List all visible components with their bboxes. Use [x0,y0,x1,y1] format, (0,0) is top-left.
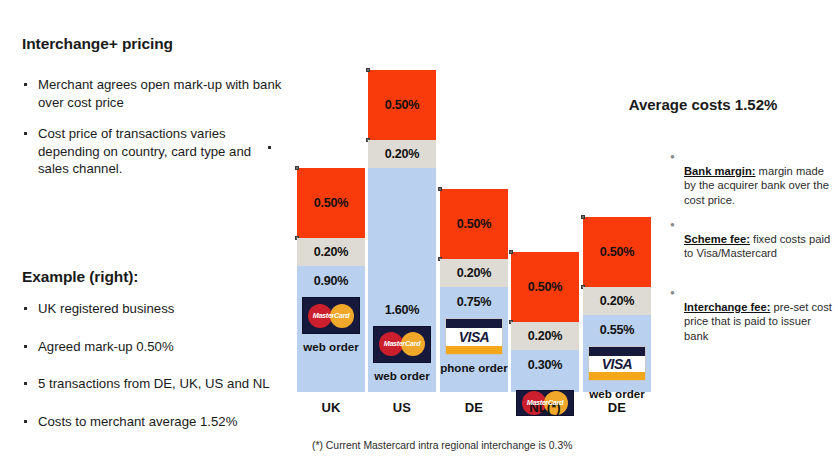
channel-label: web order [303,341,358,353]
list-item: Costs to merchant average 1.52% [22,413,290,431]
chart-footnote: (*) Current Mastercard intra regional in… [312,440,572,451]
segment-value: 0.50% [314,196,349,210]
selection-handle [366,68,370,72]
visa-wordmark: VISA [589,356,645,372]
list-item: Cost price of transactions varies depend… [22,125,284,178]
mastercard-logo-icon: MasterCard [302,297,360,334]
segment-value: 0.90% [314,274,349,288]
bar-column-de-web: 0.50% 0.20% 0.55% VISA web order [583,217,651,392]
bar-segment-bank-margin: 0.50% [368,70,436,140]
stacked-bar-chart: 0.50% 0.20% 0.90% MasterCard web order [290,0,665,459]
visa-bottom-bar [446,346,502,354]
bar-segment-scheme-fee: 0.20% [297,238,365,266]
axis-tick-label: UK [297,400,365,415]
legend-item-interchange-fee: Interchange fee: pre-set cost price that… [684,300,836,343]
segment-value: 0.50% [457,217,492,231]
stray-bullet-dot [268,146,271,149]
example-heading: Example (right): [22,268,138,286]
segment-value: 0.20% [528,329,563,343]
visa-top-bar [446,319,502,328]
legend-term: Interchange fee: [684,301,770,313]
axis-tick-label: US [368,400,436,415]
channel-label: web order [589,388,644,400]
page-title: Interchange+ pricing [22,35,173,53]
selection-handle [438,187,442,191]
example-bullet-list: UK registered business Agreed mark-up 0.… [22,300,290,450]
segment-value: 0.20% [457,266,492,280]
bar-segment-interchange-fee: 1.60% MasterCard web order [368,168,436,392]
visa-logo-icon: VISA [445,318,503,355]
visa-wordmark: VISA [446,328,502,346]
bar-segment-bank-margin: 0.50% [511,252,579,322]
legend-marker-icon: ● [670,220,675,229]
legend-column: Average costs 1.52% ● Bank margin: margi… [668,0,838,459]
segment-value: 0.55% [600,323,635,337]
list-item: Agreed mark-up 0.50% [22,338,290,356]
segment-value: 0.20% [600,294,635,308]
pricing-bullet-list: Merchant agrees open mark-up with bank o… [22,76,284,192]
visa-top-bar [589,347,645,356]
bar-segment-interchange-fee: 0.90% MasterCard web order [297,266,365,392]
legend-term: Bank margin: [684,165,756,177]
bar-column-uk: 0.50% 0.20% 0.90% MasterCard web order [297,168,365,392]
bar-segment-bank-margin: 0.50% [583,217,651,287]
list-item: 5 transactions from DE, UK, US and NL [22,375,290,393]
segment-value: 0.20% [314,245,349,259]
legend-item-scheme-fee: Scheme fee: fixed costs paid to Visa/Mas… [684,232,836,261]
mastercard-wordmark: MasterCard [308,311,354,320]
mastercard-wordmark: MasterCard [522,398,568,407]
segment-value: 0.20% [385,147,420,161]
selection-handle [509,250,513,254]
bar-column-nl: 0.50% 0.20% 0.30% MasterCard [511,252,579,392]
selection-handle [295,166,299,170]
bar-column-us: 0.50% 0.20% 1.60% MasterCard web order [368,70,436,392]
list-item: Merchant agrees open mark-up with bank o… [22,76,284,111]
bar-segment-bank-margin: 0.50% [440,189,508,259]
left-text-column: Interchange+ pricing Merchant agrees ope… [0,0,292,459]
bar-segment-scheme-fee: 0.20% [583,287,651,315]
bar-segment-scheme-fee: 0.20% [368,140,436,168]
bar-segment-interchange-fee: 0.55% VISA web order [583,315,651,392]
channel-label: phone order [440,362,508,374]
mastercard-wordmark: MasterCard [379,339,425,348]
axis-tick-label: DE [583,400,651,415]
legend-item-bank-margin: Bank margin: margin made by the acquirer… [684,164,836,207]
mastercard-logo-icon: MasterCard [373,326,431,363]
bar-column-de-phone: 0.50% 0.20% 0.75% VISA phone order [440,189,508,392]
channel-label: web order [374,370,429,382]
legend-term: Scheme fee: [684,233,750,245]
axis-tick-label: DE [440,400,508,415]
bar-segment-interchange-fee: 0.75% VISA phone order [440,287,508,392]
segment-value: 0.50% [385,98,420,112]
legend-marker-icon: ● [670,152,675,161]
list-item: UK registered business [22,300,290,318]
legend-marker-icon: ● [670,288,675,297]
segment-value: 0.75% [457,295,492,309]
segment-value: 0.50% [528,280,563,294]
bar-segment-interchange-fee: 0.30% MasterCard [511,350,579,392]
average-costs-heading: Average costs 1.52% [588,96,818,113]
segment-value: 1.60% [385,303,420,317]
bar-segment-scheme-fee: 0.20% [511,322,579,350]
bar-segment-scheme-fee: 0.20% [440,259,508,287]
visa-bottom-bar [589,372,645,380]
visa-logo-icon: VISA [588,346,646,381]
selection-handle [581,215,585,219]
segment-value: 0.50% [600,245,635,259]
bar-segment-bank-margin: 0.50% [297,168,365,238]
segment-value: 0.30% [528,358,563,372]
